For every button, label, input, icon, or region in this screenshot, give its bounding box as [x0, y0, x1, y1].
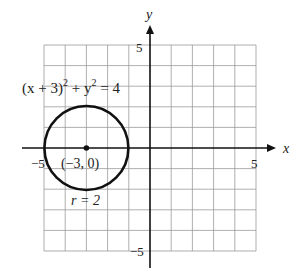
x-axis-arrow-icon	[267, 144, 276, 152]
x-max-tick-label: 5	[251, 156, 258, 171]
y-axis-label: y	[144, 7, 153, 22]
y-max-tick-label: 5	[136, 40, 143, 55]
y-axis-arrow-icon	[146, 25, 154, 34]
equation-label: (x + 3)2 + y2 = 4	[22, 77, 120, 97]
x-min-tick-label: −5	[31, 156, 45, 171]
radius-label: r = 2	[71, 193, 100, 208]
center-label: (−3, 0)	[61, 156, 100, 172]
x-axis-label: x	[282, 141, 290, 156]
center-point	[84, 145, 90, 151]
y-min-tick-label: −5	[130, 244, 144, 259]
coordinate-plane: y x 5 −5 5 −5 (x + 3)2 + y2 = 4 (−3, 0) …	[0, 0, 303, 273]
